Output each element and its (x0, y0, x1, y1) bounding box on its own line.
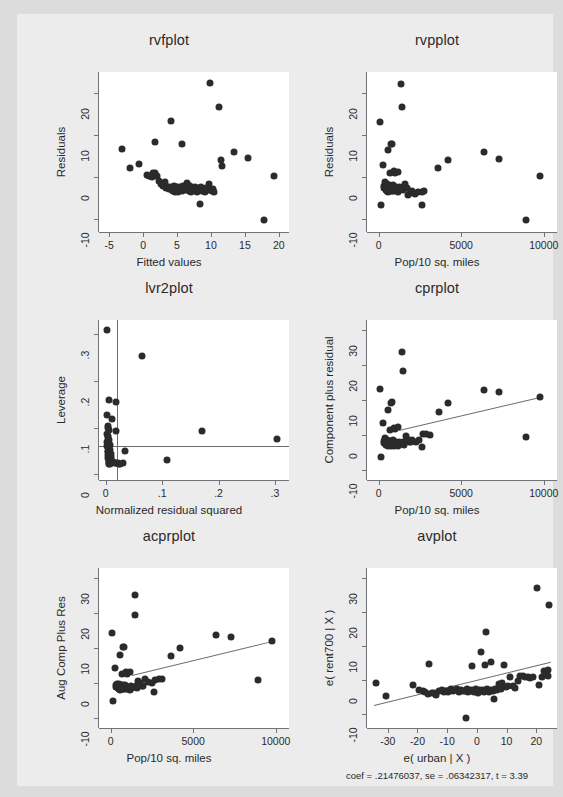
x-tick-label: 0 (376, 239, 382, 251)
scatter-point (111, 665, 118, 672)
plot-title-avplot: avplot (303, 528, 563, 544)
scatter-point (379, 162, 386, 169)
y-tick-label: -10 (79, 724, 91, 754)
x-tick-label: 5 (174, 239, 180, 251)
plot-area-rvfplot (99, 72, 289, 232)
y-tick (362, 578, 366, 579)
stata-graph-canvas: rvfplot-1001020-505101520Fitted valuesRe… (17, 14, 553, 786)
y-tick (362, 177, 366, 178)
scatter-point (523, 434, 530, 441)
y-tick-label: 10 (347, 406, 359, 436)
y-tick-label: 10 (79, 141, 91, 171)
scatter-point (545, 673, 552, 680)
y-tick (94, 177, 98, 178)
x-axis-title-avplot: e( urban | X ) (303, 752, 563, 764)
scatter-point (426, 432, 433, 439)
scatter-point (379, 419, 386, 426)
scatter-point (537, 393, 544, 400)
x-tick-label: 5000 (449, 239, 472, 251)
x-tick (544, 233, 545, 237)
scatter-point (376, 118, 383, 125)
x-tick (536, 729, 537, 733)
plot-area-avplot (367, 568, 557, 728)
x-tick (544, 481, 545, 485)
scatter-point (444, 400, 451, 407)
x-axis-title-rvpplot: Pop/10 sq. miles (303, 256, 563, 268)
scatter-point (384, 406, 391, 413)
fit-line (374, 662, 551, 706)
plot-area-lvr2plot (99, 320, 289, 480)
y-axis-line (366, 320, 367, 480)
scatter-point (110, 697, 117, 704)
scatter-point (536, 681, 543, 688)
y-tick-label: 30 (347, 584, 359, 614)
scatter-point (127, 165, 134, 172)
scatter-point (398, 104, 405, 111)
scatter-point (106, 461, 113, 468)
x-axis-title-lvr2plot: Normalized residual squared (35, 504, 303, 516)
x-axis-line (367, 728, 557, 729)
x-tick-label: 15 (239, 239, 251, 251)
scatter-point (121, 447, 128, 454)
y-tick (94, 381, 98, 382)
y-tick (362, 365, 366, 366)
y-tick-label: 20 (79, 619, 91, 649)
y-axis-title-cprplot: Component plus residual (323, 320, 335, 480)
x-tick (143, 233, 144, 237)
scatter-point (397, 80, 404, 87)
scatter-point (496, 389, 503, 396)
x-tick-label: -30 (380, 735, 395, 747)
scatter-point (389, 399, 396, 406)
x-tick (219, 481, 220, 485)
x-tick (211, 233, 212, 237)
x-tick (417, 729, 418, 733)
y-tick-label: .3 (79, 340, 91, 370)
x-tick (507, 729, 508, 733)
x-tick (461, 481, 462, 485)
x-tick (388, 729, 389, 733)
scatter-point (231, 148, 238, 155)
y-tick-label: 20 (347, 99, 359, 129)
x-tick-label: 20 (273, 239, 285, 251)
x-tick-label: 5000 (449, 487, 472, 499)
reference-line-horizontal (99, 446, 289, 447)
scatter-point (399, 348, 406, 355)
x-tick-label: -10 (440, 735, 455, 747)
scatter-point (394, 424, 401, 431)
scatter-point (255, 677, 262, 684)
y-tick (94, 334, 98, 335)
y-tick-label: .1 (79, 434, 91, 464)
x-axis-line (99, 232, 289, 233)
plot-title-acprplot: acprplot (35, 528, 303, 544)
x-tick (276, 729, 277, 733)
avplot-coef-caption: coef = .21476037, se = .06342317, t = 3.… (303, 770, 563, 781)
plot-area-rvpplot (367, 72, 557, 232)
x-tick-label: -20 (410, 735, 425, 747)
scatter-point (218, 163, 225, 170)
scatter-point (197, 201, 204, 208)
x-tick-label: 10000 (529, 239, 558, 251)
scatter-point (139, 353, 146, 360)
scatter-point (159, 676, 166, 683)
x-tick-label: .2 (214, 487, 223, 499)
scatter-point (394, 168, 401, 175)
scatter-point (481, 149, 488, 156)
scatter-point (419, 202, 426, 209)
scatter-point (167, 653, 174, 660)
x-tick (477, 729, 478, 733)
scatter-point (462, 715, 469, 722)
x-tick-label: 0 (108, 735, 114, 747)
plot-title-rvpplot: rvpplot (303, 32, 563, 48)
x-tick (162, 481, 163, 485)
scatter-point (167, 117, 174, 124)
x-axis-line (99, 480, 289, 481)
x-tick (379, 481, 380, 485)
scatter-point (545, 601, 552, 608)
x-tick (109, 233, 110, 237)
scatter-point (150, 689, 157, 696)
scatter-point (496, 156, 503, 163)
scatter-point (501, 662, 508, 669)
scatter-point (103, 326, 110, 333)
y-tick (94, 648, 98, 649)
x-axis-title-cprplot: Pop/10 sq. miles (303, 504, 563, 516)
